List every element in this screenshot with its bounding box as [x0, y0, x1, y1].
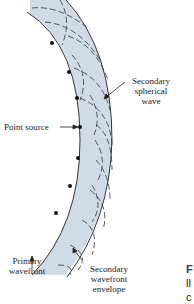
point-source-dot — [54, 211, 58, 215]
label-line: spherical — [126, 86, 176, 96]
label-line: Primary — [4, 256, 50, 266]
label-line: Point source — [4, 122, 49, 132]
label-line: wave — [126, 96, 176, 106]
label-point-source: Point source — [4, 122, 60, 132]
label-line: Secondary — [84, 264, 134, 274]
point-source-dot — [76, 156, 80, 160]
caption-fragment: F ll c — [186, 262, 193, 304]
label-secondary-wavefront-envelope: Secondary wavefront envelope — [84, 264, 134, 294]
label-primary-wavefront: Primary wavefront — [4, 256, 50, 276]
arrowhead-icon — [73, 125, 78, 129]
point-source-dot — [68, 184, 72, 188]
label-line: Secondary — [126, 76, 176, 86]
label-line: wavefront — [4, 266, 50, 276]
caption-text-line: c — [186, 290, 193, 304]
point-source-dot — [50, 41, 54, 45]
label-line: envelope — [84, 284, 134, 294]
caption-text-line: ll — [186, 276, 193, 290]
wavefront-band — [30, 0, 112, 275]
point-source-dot — [75, 96, 79, 100]
label-line: wavefront — [84, 274, 134, 284]
point-source-dot — [67, 70, 71, 74]
caption-figure-label: F — [186, 262, 193, 276]
label-secondary-spherical-wave: Secondary spherical wave — [126, 76, 176, 106]
